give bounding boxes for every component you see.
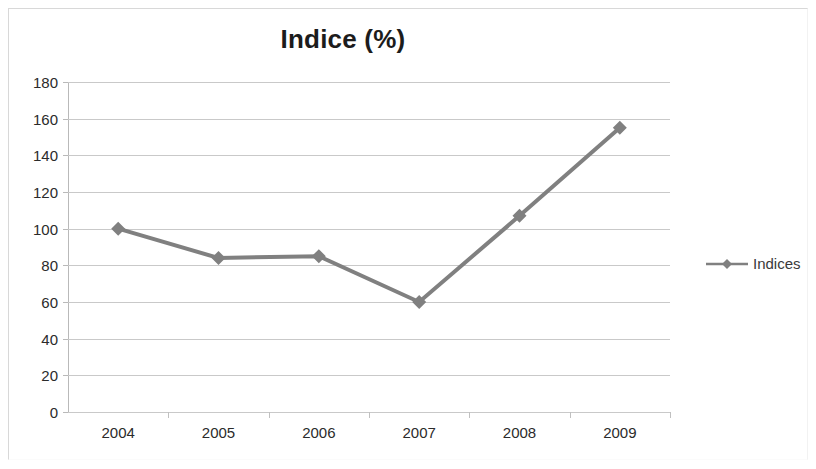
legend-item-label: Indices (753, 255, 801, 272)
x-axis-tick-mark (369, 412, 370, 418)
x-axis-tick-mark (269, 412, 270, 418)
chart-title: Indice (%) (0, 24, 686, 55)
x-axis-tick-label: 2007 (384, 424, 454, 441)
series-line (118, 128, 620, 302)
series-indices (68, 82, 670, 412)
x-axis-tick-mark (670, 412, 671, 418)
y-axis-tick-label: 20 (12, 367, 58, 384)
y-axis-tick-label: 0 (12, 404, 58, 421)
y-axis-tick-label: 80 (12, 257, 58, 274)
y-axis-tick-label: 160 (12, 110, 58, 127)
plot-area (68, 82, 670, 412)
y-axis-tick-label: 100 (12, 220, 58, 237)
y-axis-tick-label: 180 (12, 74, 58, 91)
data-point-marker (111, 222, 125, 236)
x-axis-tick-label: 2008 (485, 424, 555, 441)
y-axis-tick-label: 60 (12, 294, 58, 311)
y-axis-tick-labels: 180160140120100806040200 (10, 82, 58, 412)
data-point-marker (312, 249, 326, 263)
legend: Indices (706, 255, 801, 272)
y-axis-tick-mark (63, 412, 68, 413)
x-axis-tick-label: 2004 (83, 424, 153, 441)
data-point-marker (212, 251, 226, 265)
chart-screenshot: Indice (%) 180160140120100806040200 2004… (0, 0, 816, 469)
x-axis-tick-label: 2006 (284, 424, 354, 441)
x-axis-tick-mark (168, 412, 169, 418)
x-axis-tick-mark (469, 412, 470, 418)
y-axis-tick-label: 140 (12, 147, 58, 164)
x-axis-tick-label: 2009 (585, 424, 655, 441)
legend-marker-icon (706, 257, 748, 271)
x-axis-tick-label: 2005 (184, 424, 254, 441)
x-axis-tick-mark (570, 412, 571, 418)
y-axis-tick-label: 120 (12, 184, 58, 201)
y-axis-tick-label: 40 (12, 330, 58, 347)
